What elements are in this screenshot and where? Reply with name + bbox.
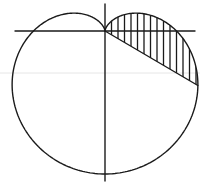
shaded-region-hatching (112, 0, 197, 184)
cardioid-diagram (0, 0, 200, 184)
